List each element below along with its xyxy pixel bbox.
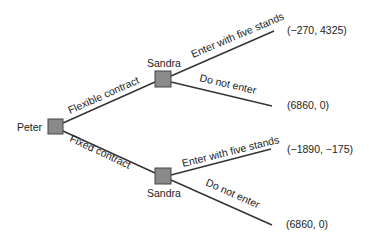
edge-label-lower-not-enter: Do not enter xyxy=(204,176,262,211)
payoff-4: (6860, 0) xyxy=(286,218,328,230)
game-tree-diagram: Peter Sandra Sandra Flexible contract Fi… xyxy=(0,0,369,244)
player-label-sandra-upper: Sandra xyxy=(147,57,181,69)
node-sandra-lower xyxy=(155,168,171,184)
payoff-3: (−1890, −175) xyxy=(287,143,353,155)
node-peter xyxy=(48,119,63,134)
edge-label-upper-enter: Enter with five stands xyxy=(189,10,286,60)
node-sandra-upper xyxy=(155,71,171,87)
payoff-1: (−270, 4325) xyxy=(287,24,347,36)
player-label-peter: Peter xyxy=(17,121,43,133)
edge-label-upper-not-enter: Do not enter xyxy=(199,71,258,96)
edge-label-fixed-contract: Fixed contract xyxy=(68,132,133,171)
payoff-2: (6860, 0) xyxy=(287,99,329,111)
player-label-sandra-lower: Sandra xyxy=(147,187,181,199)
edge-label-flexible-contract: Flexible contract xyxy=(66,74,141,116)
